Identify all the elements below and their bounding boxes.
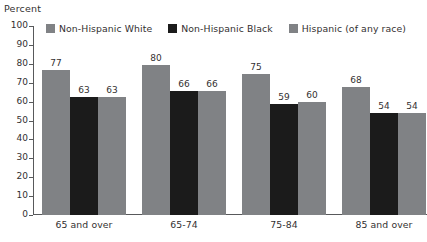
- bar[interactable]: [342, 87, 370, 215]
- y-tick-mark: [29, 45, 33, 46]
- bar-value-label: 77: [50, 58, 61, 69]
- y-tick-label: 0: [22, 209, 28, 219]
- y-tick-label: 80: [17, 58, 28, 68]
- bar-value-label: 68: [350, 75, 361, 86]
- y-tick-mark: [29, 102, 33, 103]
- bar-column[interactable]: 75: [242, 26, 270, 215]
- bar-column[interactable]: 59: [270, 26, 298, 215]
- bar[interactable]: [70, 97, 98, 215]
- bar[interactable]: [198, 91, 226, 215]
- x-axis-category-label: 65 and over: [42, 219, 126, 230]
- bar[interactable]: [42, 70, 70, 215]
- bar-column[interactable]: 80: [142, 26, 170, 215]
- y-tick-label: 40: [17, 133, 28, 143]
- bar-column[interactable]: 68: [342, 26, 370, 215]
- bars-layer: 776363806666755960685454: [34, 26, 417, 215]
- bar-value-label: 63: [106, 85, 117, 96]
- bar-group: 685454: [342, 26, 426, 215]
- y-tick-label: 100: [11, 20, 28, 30]
- bar-group: 755960: [242, 26, 326, 215]
- bar[interactable]: [398, 113, 426, 215]
- y-tick-mark: [29, 83, 33, 84]
- y-tick-label: 70: [17, 77, 28, 87]
- bar[interactable]: [242, 74, 270, 215]
- bar[interactable]: [98, 97, 126, 215]
- y-tick-mark: [29, 215, 33, 216]
- bar[interactable]: [370, 113, 398, 215]
- y-tick-label: 10: [17, 190, 28, 200]
- bar-column[interactable]: 54: [370, 26, 398, 215]
- bar-value-label: 54: [378, 101, 389, 112]
- x-axis-category-labels: 65 and over65-7475-8485 and over: [33, 219, 417, 235]
- bar-value-label: 60: [306, 90, 317, 101]
- y-tick-label: 30: [17, 152, 28, 162]
- bar[interactable]: [142, 65, 170, 215]
- y-tick: 0: [33, 215, 37, 216]
- bar-value-label: 66: [178, 79, 189, 90]
- x-axis-category-label: 65-74: [142, 219, 226, 230]
- x-axis-category-label: 85 and over: [342, 219, 426, 230]
- bar-column[interactable]: 77: [42, 26, 70, 215]
- bar[interactable]: [270, 104, 298, 215]
- x-axis-category-label: 75-84: [242, 219, 326, 230]
- bar-value-label: 80: [150, 53, 161, 64]
- bar-column[interactable]: 66: [170, 26, 198, 215]
- bar-column[interactable]: 63: [70, 26, 98, 215]
- bar-value-label: 66: [206, 79, 217, 90]
- bar-value-label: 63: [78, 85, 89, 96]
- bar-chart: Percent Non-Hispanic WhiteNon-Hispanic B…: [0, 0, 427, 242]
- y-tick-mark: [29, 196, 33, 197]
- bar-column[interactable]: 66: [198, 26, 226, 215]
- y-axis-title: Percent: [4, 3, 41, 14]
- bar-value-label: 54: [406, 101, 417, 112]
- bar-group: 806666: [142, 26, 226, 215]
- bar[interactable]: [298, 102, 326, 215]
- bar-column[interactable]: 60: [298, 26, 326, 215]
- y-tick-mark: [29, 177, 33, 178]
- y-tick-label: 50: [17, 115, 28, 125]
- bar[interactable]: [170, 91, 198, 215]
- y-tick-label: 60: [17, 96, 28, 106]
- bar-column[interactable]: 63: [98, 26, 126, 215]
- y-tick-mark: [29, 139, 33, 140]
- y-tick-mark: [29, 158, 33, 159]
- bar-value-label: 75: [250, 62, 261, 73]
- y-tick-mark: [29, 64, 33, 65]
- y-tick-label: 20: [17, 171, 28, 181]
- bar-column[interactable]: 54: [398, 26, 426, 215]
- y-tick-mark: [29, 121, 33, 122]
- y-tick-mark: [29, 26, 33, 27]
- bar-group: 776363: [42, 26, 126, 215]
- y-tick-label: 90: [17, 39, 28, 49]
- plot-area: 1009080706050403020100 77636380666675596…: [33, 26, 417, 215]
- bar-value-label: 59: [278, 92, 289, 103]
